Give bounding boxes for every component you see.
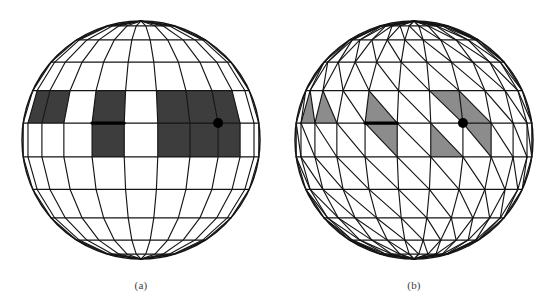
shaded-quad-cell [190,123,218,157]
mesh-diagonal-line [400,26,405,40]
mesh-meridian-line [414,21,431,259]
mesh-diagonal-line [387,40,401,62]
mesh-diagonal-line [513,123,527,157]
mesh-diagonal-line [478,218,500,240]
vertex-marker-dot [213,118,223,128]
mesh-diagonal-line [328,40,350,62]
mesh-diagonal-line [337,123,365,157]
mesh-diagonal-line [442,26,476,40]
mesh-diagonal-line [459,189,473,218]
shaded-quad-cell [218,123,240,157]
mesh-diagonal-line [352,240,386,254]
mesh-diagonal-line [513,157,518,189]
mesh-diagonal-line [427,218,441,240]
mesh-diagonal-line [401,62,429,91]
mesh-diagonal-line [372,40,377,62]
mesh-diagonal-line [463,157,485,189]
mesh-diagonal-line [451,62,485,91]
mesh-diagonal-line [369,189,401,218]
mesh-diagonal-line [427,62,459,91]
mesh-diagonal-line [399,189,427,218]
mesh-diagonal-line [377,218,405,240]
caption-label-a: (a) [135,279,148,292]
shaded-triangle-cell [315,91,337,123]
mesh-diagonal-line [296,123,301,157]
mesh-diagonal-line [323,189,355,218]
mesh-diagonal-line [423,240,428,254]
mesh-meridian-line [397,21,414,259]
mesh-diagonal-line [343,189,377,218]
mesh-diagonal-line [476,40,504,62]
mesh-diagonal-line [397,157,429,189]
figure-container: (a) (b) [0,0,560,305]
mesh-diagonal-line [448,240,476,254]
mesh-diagonal-line [338,62,343,91]
sphere-mesh-figure: (a) (b) [0,0,560,305]
mesh-diagonal-line [431,157,459,189]
mesh-diagonal-line [310,62,324,91]
mesh-meridian-line [141,21,158,259]
shaded-quad-cell [158,123,190,157]
mesh-diagonal-line [343,91,365,123]
panel-b-sphere-triangle-mesh [295,21,533,259]
mesh-diagonal-line [355,62,369,91]
mesh-diagonal-line [301,123,315,157]
panel-a-sphere-quad-mesh [22,21,260,259]
caption-label-b: (b) [407,279,421,292]
mesh-diagonal-line [397,123,431,157]
mesh-diagonal-line [491,157,505,189]
shaded-quad-cell [92,123,124,157]
mesh-diagonal-line [324,218,352,240]
mesh-diagonal-line [491,123,513,157]
shaded-quad-cell [92,91,126,123]
mesh-diagonal-line [485,189,490,218]
mesh-diagonal-line [504,189,518,218]
mesh-diagonal-line [377,62,399,91]
shaded-quad-cell [156,91,190,123]
mesh-diagonal-line [429,189,451,218]
mesh-diagonal-line [451,218,456,240]
mesh-diagonal-line [527,123,532,157]
mesh-diagonal-line [473,62,505,91]
mesh-diagonal-line [315,123,337,157]
mesh-diagonal-line [352,26,380,40]
vertex-marker-dot [458,118,468,128]
mesh-meridian-line [124,21,141,259]
mesh-diagonal-line [399,91,431,123]
mesh-diagonal-line [423,40,451,62]
mesh-diagonal-line [365,157,399,189]
